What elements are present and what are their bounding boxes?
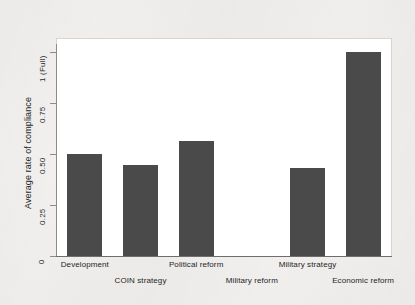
- bar: [290, 168, 325, 256]
- y-axis-tick-label-text: 1 (Full): [38, 56, 47, 83]
- x-axis-label: Military reform: [197, 276, 307, 285]
- x-axis-label: Political reform: [141, 260, 251, 269]
- scanned-page-background: Average rate of compliance 1 (Full)0.750…: [0, 0, 415, 305]
- x-axis-label: COIN strategy: [86, 276, 196, 285]
- y-axis-tick-mark: [50, 103, 56, 104]
- bar: [179, 141, 214, 256]
- x-axis-label: Development: [30, 260, 140, 269]
- bar-series: [57, 38, 391, 256]
- y-axis-tick-mark: [50, 205, 56, 206]
- y-axis-tick-mark: [50, 256, 56, 257]
- y-axis-tick-label-text: 0.50: [38, 158, 47, 174]
- bar: [346, 52, 381, 256]
- x-axis-line: [56, 256, 392, 257]
- y-axis-tick-mark: [50, 154, 56, 155]
- y-axis-tick-mark: [50, 52, 56, 53]
- y-axis-tick-label-text: 0.25: [38, 209, 47, 225]
- bar: [123, 165, 158, 256]
- bar: [67, 154, 102, 256]
- bar-chart: Average rate of compliance 1 (Full)0.750…: [0, 0, 415, 305]
- y-axis-title: Average rate of compliance: [23, 63, 33, 243]
- x-axis-label: Military strategy: [253, 260, 363, 269]
- y-axis-tick-label-text: 0.75: [38, 107, 47, 123]
- x-axis-label: Economic reform: [308, 276, 415, 285]
